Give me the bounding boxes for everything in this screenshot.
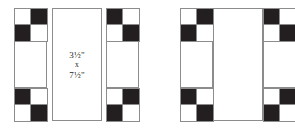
patch-bottom-left xyxy=(14,104,32,122)
left-strip-center-open xyxy=(14,41,47,88)
patch-bottom-right xyxy=(122,24,140,42)
patch-bottom-right xyxy=(279,24,295,42)
center-size-line-2: x xyxy=(75,60,79,70)
patch-top-right xyxy=(30,88,48,106)
right-strip-center-open xyxy=(106,41,139,88)
patch-bottom-right xyxy=(196,104,214,122)
assembled-left-strip-open xyxy=(180,41,213,88)
left-strip-bottom-fourpatch xyxy=(14,88,47,121)
patch-top-right xyxy=(196,8,214,26)
patch-bottom-left xyxy=(14,24,32,42)
patch-top-left xyxy=(14,8,32,26)
patch-top-right xyxy=(279,8,295,26)
assembled-top-right-fourpatch xyxy=(263,8,295,41)
patch-top-right xyxy=(30,8,48,26)
patch-top-left xyxy=(263,88,281,106)
patch-top-right xyxy=(122,8,140,26)
center-size-line-3: 7½" xyxy=(69,70,85,80)
patch-top-left xyxy=(106,8,124,26)
right-strip-top-fourpatch xyxy=(106,8,139,41)
patch-bottom-left xyxy=(263,104,281,122)
assembled-bottom-right-fourpatch xyxy=(263,88,295,121)
patch-bottom-left xyxy=(180,104,198,122)
patch-bottom-right xyxy=(122,104,140,122)
assembled-top-left-fourpatch xyxy=(180,8,213,41)
patch-top-left xyxy=(106,88,124,106)
patch-bottom-left xyxy=(106,104,124,122)
patch-top-right xyxy=(196,88,214,106)
patch-top-right xyxy=(122,88,140,106)
assembled-bottom-left-fourpatch xyxy=(180,88,213,121)
left-strip-top-fourpatch xyxy=(14,8,47,41)
patch-bottom-right xyxy=(30,104,48,122)
assembled-right-strip-open xyxy=(263,41,295,88)
patch-top-left xyxy=(180,8,198,26)
patch-bottom-left xyxy=(180,24,198,42)
right-strip-bottom-fourpatch xyxy=(106,88,139,121)
patch-bottom-left xyxy=(263,24,281,42)
patch-top-right xyxy=(279,88,295,106)
quilt-block-diagram: 3½" x 7½" xyxy=(0,0,295,129)
patch-bottom-right xyxy=(30,24,48,42)
assembled-center-rectangle xyxy=(213,8,263,121)
patch-bottom-right xyxy=(279,104,295,122)
center-rectangle: 3½" x 7½" xyxy=(52,8,102,121)
patch-bottom-left xyxy=(106,24,124,42)
patch-top-left xyxy=(263,8,281,26)
patch-bottom-right xyxy=(196,24,214,42)
patch-top-left xyxy=(14,88,32,106)
patch-top-left xyxy=(180,88,198,106)
center-size-line-1: 3½" xyxy=(69,50,85,60)
